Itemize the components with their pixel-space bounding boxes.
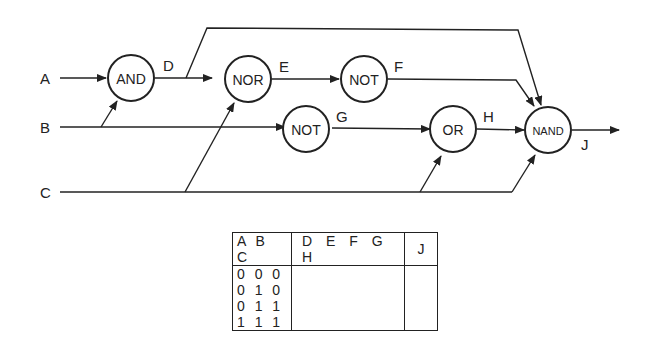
signal-label-g: G (336, 108, 348, 125)
header-intermediates: D E F G H (292, 233, 405, 266)
wire-c-to-or (420, 156, 441, 192)
input-label-a: A (40, 70, 50, 87)
row-output (405, 282, 438, 298)
table-row: 0 1 0 (233, 282, 438, 298)
not-gate-g: NOT (283, 106, 329, 152)
wire-c-to-nor (185, 103, 234, 192)
signal-label-f: F (394, 58, 403, 75)
and-gate: AND (108, 55, 154, 101)
row-output (405, 298, 438, 314)
row-inputs: 0 0 0 (233, 266, 292, 283)
row-intermediates (292, 282, 405, 298)
header-output: J (405, 233, 438, 266)
row-intermediates (292, 298, 405, 314)
wire-f (388, 79, 534, 106)
wire-g (332, 128, 430, 129)
signal-label-j: J (581, 136, 589, 153)
svg-text:NOT: NOT (349, 72, 379, 88)
row-intermediates (292, 266, 405, 283)
signal-label-e: E (279, 58, 289, 75)
input-label-c: C (40, 184, 51, 201)
svg-text:NOR: NOR (232, 72, 263, 88)
svg-text:NAND: NAND (532, 125, 563, 137)
signal-label-h: H (483, 108, 494, 125)
header-inputs: A B C (233, 233, 292, 266)
not-gate-f: NOT (341, 56, 387, 102)
logic-circuit-diagram: A B C AND NOR NOT NOT OR (0, 0, 657, 220)
row-inputs: 0 1 1 (233, 298, 292, 314)
row-inputs: 1 1 1 (233, 314, 292, 331)
table-row: 1 1 1 (233, 314, 438, 331)
row-output (405, 314, 438, 331)
row-inputs: 0 1 0 (233, 282, 292, 298)
table-row: 0 0 0 (233, 266, 438, 283)
wire-c-to-nand (512, 155, 535, 192)
or-gate: OR (430, 106, 476, 152)
nor-gate: NOR (225, 56, 271, 102)
svg-text:OR: OR (443, 122, 464, 138)
table-row: 0 1 1 (233, 298, 438, 314)
wire-b-to-and (101, 101, 117, 127)
wire-h (477, 129, 524, 130)
nand-gate: NAND (525, 107, 571, 153)
row-output (405, 266, 438, 283)
signal-label-d: D (163, 57, 174, 74)
truth-table-header: A B C D E F G H J (233, 233, 438, 266)
truth-table: A B C D E F G H J 0 0 0 0 1 0 0 1 1 1 1 … (232, 232, 438, 331)
input-label-b: B (40, 119, 50, 136)
row-intermediates (292, 314, 405, 331)
svg-text:AND: AND (116, 71, 146, 87)
svg-text:NOT: NOT (291, 122, 321, 138)
